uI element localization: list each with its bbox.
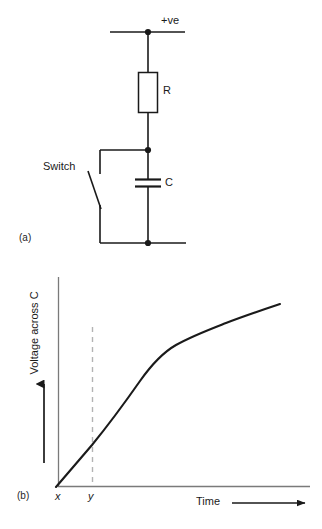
resistor-label: R [163, 85, 171, 96]
panel-a-circuit-diagram [0, 0, 322, 265]
resistor-symbol [139, 73, 158, 113]
y-axis-label: Voltage across C [29, 291, 40, 374]
tick-label-x: x [55, 491, 61, 502]
charging-curve-line [56, 304, 280, 487]
switch-label: Switch [43, 161, 75, 172]
y-axis-label-wrapper: Voltage across C [26, 268, 42, 398]
panel-b-charging-graph [0, 265, 322, 529]
figure-rc-charging: +ve R C Switch (a) Voltage across C [0, 0, 322, 529]
x-axis-label: Time [196, 496, 220, 507]
supply-label: +ve [161, 15, 179, 26]
panel-tag-a: (a) [19, 233, 31, 243]
junction-dot-bottom [145, 240, 151, 246]
capacitor-label: C [165, 177, 173, 188]
switch-blade [88, 171, 101, 209]
panel-tag-b: (b) [17, 491, 29, 501]
tick-label-y: y [88, 491, 94, 502]
